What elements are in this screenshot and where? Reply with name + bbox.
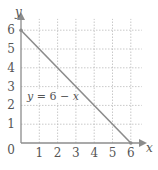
grid — [21, 19, 142, 143]
x-tick-label: 6 — [127, 146, 135, 160]
y-tick-label: 5 — [7, 42, 15, 56]
y-axis-label: y — [14, 5, 22, 19]
line-equation-annotation: y = 6 − x — [26, 90, 80, 103]
x-tick-label: 4 — [90, 146, 98, 160]
line-chart: 1234561234560 yxy = 6 − x — [0, 0, 158, 170]
x-tick-label: 2 — [54, 146, 62, 160]
x-axis-label: x — [146, 141, 153, 155]
axis-labels: yxy = 6 − x — [14, 5, 153, 155]
y-tick-label: 4 — [7, 61, 15, 75]
x-tick-label: 5 — [109, 146, 117, 160]
data-point — [129, 141, 133, 145]
y-tick-label: 6 — [7, 23, 15, 37]
y-tick-label: 1 — [7, 117, 15, 131]
x-tick-label: 1 — [35, 146, 43, 160]
x-tick-label: 3 — [72, 146, 80, 160]
data-point — [19, 28, 23, 32]
y-tick-label: 3 — [7, 80, 15, 94]
origin-label: 0 — [7, 143, 15, 157]
y-tick-label: 2 — [7, 98, 15, 112]
axes — [17, 12, 147, 147]
